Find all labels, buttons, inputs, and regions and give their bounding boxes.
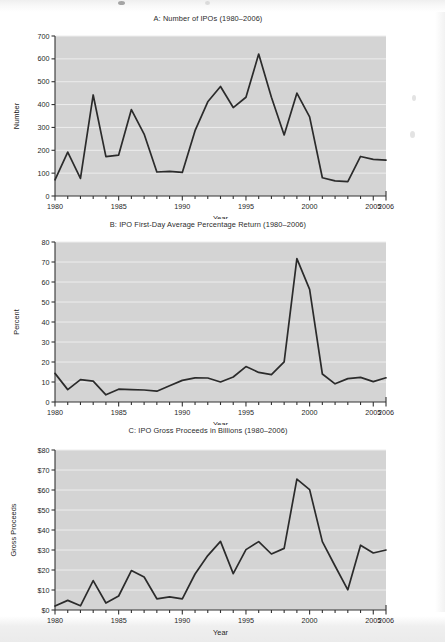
y-tick-label: 70 (42, 258, 50, 267)
x-tick-label: 1980 (47, 202, 63, 211)
y-tick-label: 20 (42, 358, 50, 367)
x-tick-label: 1990 (174, 616, 190, 625)
x-tick-label: 1995 (238, 408, 254, 417)
x-tick-label: 2006 (378, 202, 394, 211)
y-tick-label: 10 (42, 378, 50, 387)
x-tick-label: 1985 (111, 616, 127, 625)
y-tick-label: $60 (38, 486, 50, 495)
page-root: A: Number of IPOs (1980–2006) 0100200300… (0, 0, 445, 642)
y-tick-label: $50 (38, 506, 50, 515)
x-tick-label: 1980 (47, 408, 63, 417)
chart-a-plot-area: 0100200300400500600700198019851990199520… (0, 24, 445, 219)
y-tick-label: 40 (42, 318, 50, 327)
y-tick-label: 400 (38, 100, 50, 109)
y-tick-label: 700 (38, 32, 50, 41)
x-tick-label: 1985 (111, 202, 127, 211)
scan-artifact-top (0, 0, 445, 12)
y-tick-label: $0 (42, 606, 50, 615)
y-tick-label: 200 (38, 146, 50, 155)
x-tick-label: 1995 (238, 202, 254, 211)
x-tick-label: 2006 (378, 616, 394, 625)
y-tick-label: $20 (38, 566, 50, 575)
x-tick-label: 1990 (174, 202, 190, 211)
chart-a-svg: 0100200300400500600700198019851990199520… (0, 24, 445, 219)
chart-b-plot-area: 0102030405060708019801985199019952000200… (0, 230, 445, 425)
x-tick-label: 1980 (47, 616, 63, 625)
x-tick-label: 2000 (302, 202, 318, 211)
y-tick-label: 50 (42, 298, 50, 307)
y-tick-label: 0 (46, 192, 50, 201)
y-tick-label: $80 (38, 446, 50, 455)
chart-c-plot-area: $0$10$20$30$40$50$60$70$8019801985199019… (0, 436, 445, 636)
scan-speck-light (205, 1, 210, 5)
chart-a-container: A: Number of IPOs (1980–2006) 0100200300… (0, 14, 445, 219)
chart-a-title: A: Number of IPOs (1980–2006) (8, 14, 408, 24)
chart-c-container: C: IPO Gross Proceeds in Billions (1980–… (0, 426, 445, 636)
y-tick-label: $70 (38, 466, 50, 475)
y-axis-title: Gross Proceeds (9, 503, 18, 556)
x-tick-label: 1995 (238, 616, 254, 625)
x-tick-label: 2006 (378, 408, 394, 417)
y-tick-label: 0 (46, 398, 50, 407)
y-tick-label: 300 (38, 123, 50, 132)
x-tick-label: 2000 (302, 616, 318, 625)
x-axis-title: Year (213, 628, 228, 636)
chart-b-svg: 0102030405060708019801985199019952000200… (0, 230, 445, 425)
y-axis-title: Number (12, 102, 21, 129)
y-tick-label: 600 (38, 54, 50, 63)
x-tick-label: 1990 (174, 408, 190, 417)
y-tick-label: $10 (38, 586, 50, 595)
x-tick-label: 1985 (111, 408, 127, 417)
y-tick-label: 100 (38, 169, 50, 178)
y-tick-label: 60 (42, 278, 50, 287)
chart-b-title: B: IPO First-Day Average Percentage Retu… (8, 220, 408, 230)
scan-speck-dark (118, 1, 125, 5)
chart-c-title: C: IPO Gross Proceeds in Billions (1980–… (8, 426, 408, 436)
chart-b-container: B: IPO First-Day Average Percentage Retu… (0, 220, 445, 425)
y-axis-title: Percent (12, 309, 21, 334)
y-tick-label: 500 (38, 77, 50, 86)
plot-background (55, 36, 386, 196)
y-tick-label: 80 (42, 238, 50, 247)
x-axis-title: Year (213, 214, 228, 219)
y-tick-label: $30 (38, 546, 50, 555)
y-tick-label: $40 (38, 526, 50, 535)
x-axis-title: Year (213, 420, 228, 425)
chart-c-svg: $0$10$20$30$40$50$60$70$8019801985199019… (0, 436, 445, 636)
x-tick-label: 2000 (302, 408, 318, 417)
y-tick-label: 30 (42, 338, 50, 347)
